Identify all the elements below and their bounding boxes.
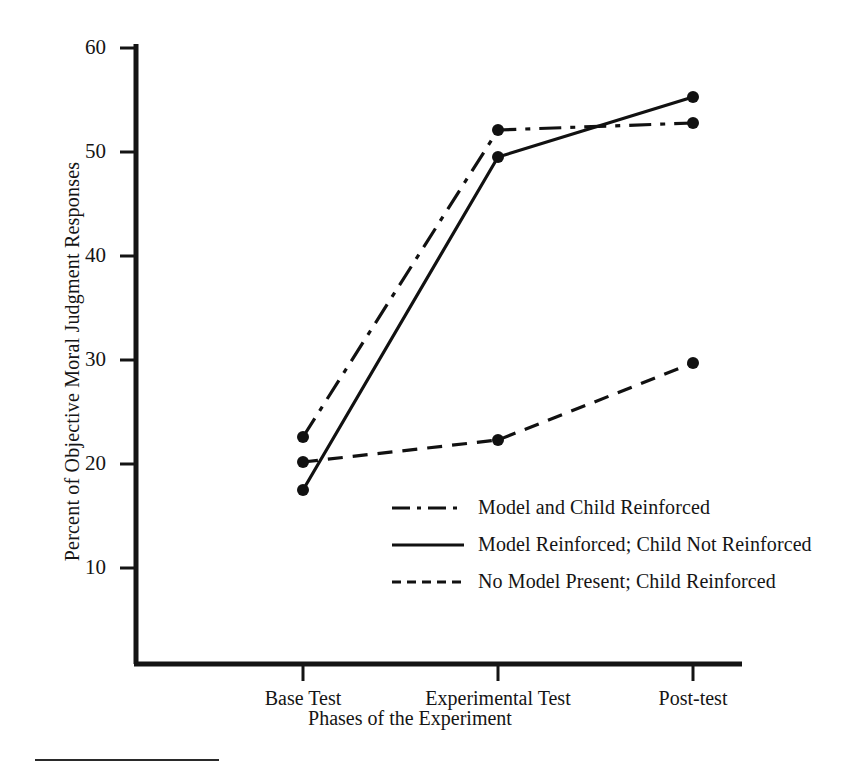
legend: Model and Child Reinforced Model Reinfor… (392, 489, 822, 600)
series-no-model-present-markers (297, 357, 699, 468)
legend-label-model-reinforced-child-not: Model Reinforced; Child Not Reinforced (478, 533, 812, 556)
legend-swatch-dashed-icon (392, 575, 464, 589)
figure-container: Percent of Objective Moral Judgment Resp… (0, 0, 867, 766)
y-tick-label-50: 50 (50, 141, 106, 162)
y-tick-label-20: 20 (50, 453, 106, 474)
legend-item-model-and-child-reinforced: Model and Child Reinforced (392, 489, 822, 526)
footnote-rule (35, 759, 219, 761)
y-tick-label-60: 60 (50, 37, 106, 58)
series-no-model-present-line (303, 363, 693, 462)
legend-swatch-solid-icon (392, 538, 464, 552)
legend-item-model-reinforced-child-not: Model Reinforced; Child Not Reinforced (392, 526, 822, 563)
chart-canvas (0, 0, 867, 766)
legend-swatch-dash-dot-icon (392, 501, 464, 515)
y-tick-label-40: 40 (50, 245, 106, 266)
x-axis-title: Phases of the Experiment (200, 707, 620, 730)
x-tick-marks (303, 664, 693, 681)
y-tick-label-10: 10 (50, 557, 106, 578)
legend-label-model-and-child-reinforced: Model and Child Reinforced (478, 496, 710, 519)
legend-label-no-model-present: No Model Present; Child Reinforced (478, 570, 776, 593)
legend-item-no-model-present: No Model Present; Child Reinforced (392, 563, 822, 600)
series-model-and-child-reinforced-markers (297, 117, 699, 443)
x-tick-label-post-test: Post-test (659, 687, 728, 710)
y-tick-label-30: 30 (50, 349, 106, 370)
